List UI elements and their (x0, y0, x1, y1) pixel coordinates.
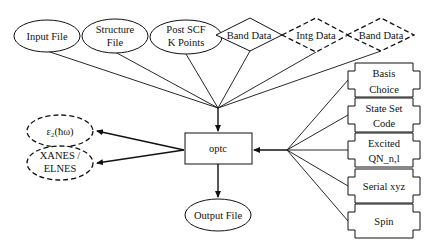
node-label-line2: K Points (168, 37, 204, 48)
node-excited-qn[interactable]: Excited QN_n,l (348, 133, 420, 167)
node-label-line1: State Set (365, 103, 402, 114)
node-post-scf-kpoints[interactable]: Post SCF K Points (150, 20, 222, 54)
node-label-line2: QN_n,l (368, 153, 399, 164)
node-band-data-dashed[interactable]: Band Data (347, 18, 414, 51)
node-label: Intg Data (296, 30, 336, 41)
node-label-line2: Code (373, 118, 396, 129)
node-label: Serial xyz (363, 181, 406, 192)
node-label: Band Data (227, 30, 272, 41)
node-label: Spin (374, 216, 394, 227)
node-optc[interactable]: optc (185, 133, 252, 164)
optc-flow-diagram: Input File Structure File Post SCF K Poi… (0, 0, 431, 251)
node-serial-xyz[interactable]: Serial xyz (348, 169, 420, 203)
node-label: optc (209, 143, 227, 154)
node-label: Input File (26, 31, 67, 42)
arrow-to-xanes (97, 150, 184, 163)
node-label-line1: Structure (96, 24, 135, 35)
node-band-data[interactable]: Band Data (216, 18, 282, 51)
node-spin[interactable]: Spin (348, 204, 420, 238)
node-epsilon2[interactable]: ε₂(ħω) (27, 115, 93, 147)
node-label-line1: XANES / (40, 150, 81, 161)
right-input-edges (287, 80, 348, 221)
node-structure-file[interactable]: Structure File (82, 19, 148, 53)
node-label-line1: Post SCF (166, 24, 206, 35)
arrow-to-epsilon (97, 131, 184, 150)
node-label: Band Data (359, 30, 404, 41)
node-input-file[interactable]: Input File (14, 20, 80, 52)
node-label-line1: Basis (373, 68, 396, 79)
node-output-file[interactable]: Output File (185, 199, 251, 231)
node-label-line2: File (107, 37, 124, 48)
node-label-line1: Excited (368, 138, 401, 149)
node-basis-choice[interactable]: Basis Choice (348, 63, 420, 97)
node-label: Output File (194, 210, 242, 221)
node-label-line2: ELNES (44, 163, 77, 174)
node-intg-data[interactable]: Intg Data (282, 18, 348, 52)
node-label-line2: Choice (369, 84, 399, 95)
node-label: ε₂(ħω) (46, 126, 74, 138)
node-state-set-code[interactable]: State Set Code (348, 98, 420, 132)
node-xanes-elnes[interactable]: XANES / ELNES (27, 146, 93, 180)
